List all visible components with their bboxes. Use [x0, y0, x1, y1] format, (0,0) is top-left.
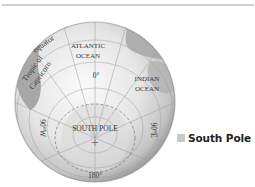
legend-swatch-south-pole	[177, 134, 185, 142]
label-meridian-90w: 90°W	[38, 119, 47, 137]
label-atlantic-line2: OCEAN	[76, 52, 100, 60]
label-meridian-0: 0°	[93, 71, 100, 80]
label-south-pole: SOUTH POLE	[72, 124, 118, 133]
label-indian-line1: INDIAN	[135, 75, 160, 83]
south-pole-globe: equator Tropic of Capricorn ATLANTIC OCE…	[0, 0, 255, 187]
pole-marker: +	[91, 137, 99, 148]
legend: South Pole	[177, 132, 251, 144]
label-meridian-180: 180°	[88, 171, 102, 180]
label-atlantic-line1: ATLANTIC	[71, 42, 106, 50]
legend-label-south-pole: South Pole	[188, 132, 251, 144]
label-indian-line2: OCEAN	[135, 85, 159, 93]
label-meridian-90e: 90°E	[149, 122, 158, 137]
